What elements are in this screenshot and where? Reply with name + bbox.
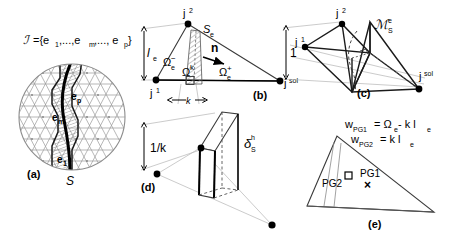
label-b-j2-superscript: 2 [189, 7, 193, 14]
figure-canvas: ℐ ={e 1 ,...,e m ,..., e p } [0, 0, 455, 238]
panel-tag-a: (a) [27, 168, 41, 180]
label-c-height-one: 1 [290, 46, 297, 60]
label-b-omega-minus-subscript: e [171, 64, 175, 71]
label-b-omega-minus-superscript: − [171, 54, 176, 63]
panel-tag-e: (e) [368, 218, 382, 230]
panel-a-set-formula: ℐ ={e 1 ,...,e m ,..., e p } [23, 33, 132, 49]
panel-d-prism [199, 112, 238, 198]
panel-e: w PG1 = Ω e - k l e w PG2 = k l e × PG2 … [307, 118, 434, 230]
panel-b-node-j1 [153, 77, 160, 84]
label-c-jsol-superscript: sol [424, 70, 433, 77]
panel-a: ℐ ={e 1 ,...,e m ,..., e p } [0, 33, 147, 188]
panel-e-base-edge [307, 206, 434, 212]
panel-b-k-dimension: k [172, 96, 205, 106]
label-b-omega-k: Ω [182, 66, 190, 78]
panel-b: l e k n j 2 j 1 j sol S e [141, 7, 298, 106]
set-mid: ,...,e [59, 34, 80, 46]
label-c-j2-superscript: 2 [342, 7, 346, 14]
label-e-eq1-tail: - k l [398, 118, 416, 130]
panel-tag-d: (d) [141, 181, 155, 193]
label-b-j2: j [182, 7, 185, 19]
panel-e-interior-strip [324, 142, 341, 207]
label-e-w1: w [344, 118, 353, 130]
label-c-manifold-subscript: S [388, 27, 393, 34]
label-d-delta-superscript: h [251, 134, 255, 141]
panel-e-pg2-marker-square [345, 172, 352, 179]
panel-d-edge-right [214, 151, 215, 198]
label-b-Se-subscript: e [210, 31, 214, 38]
multi-panel-figure: ℐ ={e 1 ,...,e m ,..., e p } [0, 0, 455, 238]
label-b-omega-plus-subscript: e [227, 74, 231, 81]
panel-e-equation-1: w PG1 = Ω e - k l e [344, 118, 431, 133]
panel-d-node-left [154, 171, 161, 178]
panel-c-node-j2 [339, 21, 345, 27]
label-edge-em-subscript: m [58, 118, 64, 125]
label-edge-e1-subscript: 1 [63, 160, 67, 167]
panel-tag-c: (c) [357, 87, 371, 99]
panel-c-node-j1 [302, 44, 308, 50]
label-c-j1: j [294, 36, 297, 48]
panel-c-node-jsol [416, 86, 423, 93]
label-b-omega-plus-superscript: + [227, 64, 232, 73]
panel-d-edge-left [199, 148, 200, 195]
set-close-brace: } [128, 34, 132, 46]
set-body-open: ={e [33, 34, 49, 46]
label-d-one-over-k: 1/k [150, 141, 167, 155]
label-c-j1-superscript: 1 [301, 36, 305, 43]
set-tail: ,..., e [94, 34, 118, 46]
set-symbol: ℐ [23, 33, 31, 47]
label-c-jsol: j [418, 70, 421, 82]
label-k-thickness: k [186, 96, 191, 106]
panel-d-front-face [199, 148, 215, 198]
label-e-eq2-rhs: = k l [380, 133, 400, 145]
label-e-w2-subscript: PG2 [359, 141, 373, 148]
label-e-eq1-rhs: = Ω [374, 118, 392, 130]
label-e-pg2: PG2 [322, 178, 342, 189]
label-e-eq1-tail-subscript: e [427, 126, 431, 133]
label-edge-ep-subscript: p [77, 97, 81, 105]
label-e-w2: w [350, 133, 359, 145]
panel-d-top-face [200, 112, 238, 151]
label-le: l [147, 46, 150, 60]
label-le-subscript: e [153, 55, 157, 62]
label-e-eq2-rhs-subscript: e [410, 141, 414, 148]
panel-b-base-edge [156, 80, 280, 81]
label-b-j1: j [149, 87, 152, 99]
label-normal-n: n [211, 41, 218, 55]
label-c-j2: j [335, 7, 338, 19]
panel-c: 1 j 2 j 1 [283, 7, 433, 99]
label-e-pg1: PG1 [360, 168, 380, 179]
label-b-jsol-superscript: sol [289, 77, 298, 84]
panel-e-equation-2: w PG2 = k l e [350, 133, 414, 148]
panel-e-pg1-marker-cross: × [364, 178, 371, 192]
panel-b-node-jsol [277, 78, 284, 85]
panel-d: 1/k δ S h (d) [141, 112, 276, 229]
panel-d-node-top [198, 145, 205, 152]
panel-b-node-j2 [185, 21, 192, 28]
panel-d-node-right [268, 221, 275, 228]
label-b-omega-plus: Ω [219, 66, 227, 78]
panel-b-normal-vector [203, 57, 224, 64]
label-c-manifold-superscript: e [388, 17, 392, 24]
panel-tag-b: (b) [253, 89, 267, 101]
label-e-w1-subscript: PG1 [353, 126, 367, 133]
label-d-delta-subscript: S [251, 146, 256, 153]
label-b-j1-superscript: 1 [156, 87, 160, 94]
label-b-omega-minus: Ω [163, 56, 171, 68]
label-surface-S: S [66, 174, 74, 188]
